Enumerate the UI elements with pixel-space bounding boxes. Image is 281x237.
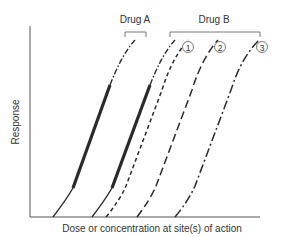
svg-text:3: 3 [260, 43, 265, 53]
drug-a-bracket [125, 32, 146, 37]
curve-drug-b-reference [92, 40, 175, 217]
curve-drug-b-2 [137, 40, 218, 217]
marker-3: 3 [257, 42, 268, 53]
y-axis-label: Response [10, 99, 21, 144]
marker-1: 1 [183, 42, 194, 53]
svg-text:2: 2 [218, 43, 223, 53]
x-axis-label: Dose or concentration at site(s) of acti… [62, 223, 242, 234]
marker-2: 2 [215, 42, 226, 53]
drug-b-label: Drug B [198, 14, 229, 25]
drug-b-bracket [170, 32, 260, 37]
dose-response-diagram: Response Dose or concentration at site(s… [0, 0, 281, 237]
drug-a-label: Drug A [120, 14, 151, 25]
svg-text:1: 1 [186, 43, 191, 53]
curve-drug-a [53, 40, 135, 217]
curve-drug-b-3 [175, 40, 259, 217]
